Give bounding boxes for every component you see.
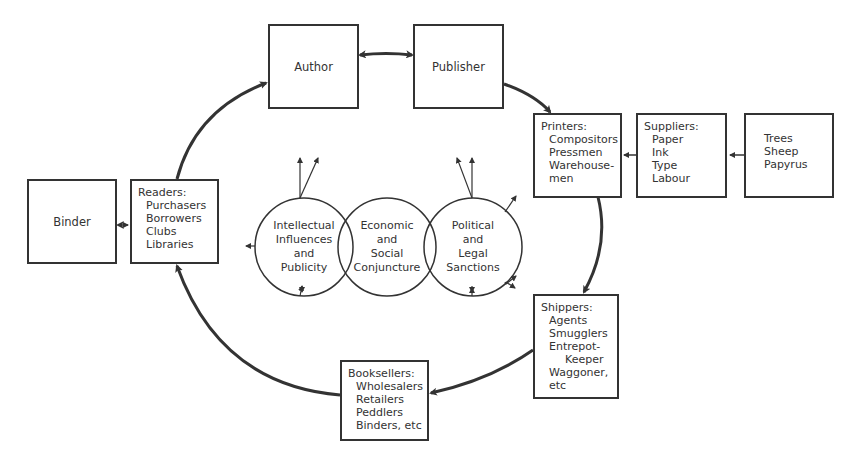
readers-item: Purchasers [138,199,213,212]
printers-box: Printers: Compositors Pressmen Warehouse… [533,113,622,198]
readers-item: Borrowers [138,212,213,225]
binder-box: Binder [27,179,117,264]
arrow-publisher-printers [504,84,550,112]
raw-materials-box: Trees Sheep Papyrus [744,113,834,198]
arrow-printers-shippers [584,197,602,292]
booksellers-item: Binders, etc [348,419,423,432]
circle-economic-text: Economic and Social Conjuncture [347,219,427,275]
printers-item: Pressmen [541,146,616,159]
shippers-item: Entrepot- [541,340,613,353]
printers-heading: Printers: [541,120,616,133]
circle-political-text: Political and Legal Sanctions [433,219,513,275]
shippers-item: Keeper [541,353,613,366]
author-label: Author [294,60,333,74]
suppliers-heading: Suppliers: [644,120,721,133]
readers-item: Libraries [138,238,213,251]
printers-item: men [541,172,616,185]
arrow-shippers-booksellers [431,350,533,393]
publisher-box: Publisher [413,24,504,109]
shippers-item: etc [541,379,613,392]
booksellers-item: Retailers [348,393,423,406]
publisher-label: Publisher [432,60,485,74]
arrow-booksellers-readers [177,266,340,395]
booksellers-item: Wholesalers [348,380,423,393]
arrow-author-publisher [360,54,412,56]
shippers-item: Smugglers [541,327,613,340]
raw-material-item: Sheep [752,145,828,158]
shippers-item: Waggoner, [541,366,613,379]
raw-material-item: Papyrus [752,158,828,171]
binder-label: Binder [53,215,90,229]
circle-intellectual-text: Intellectual Influences and Publicity [264,219,344,275]
readers-item: Clubs [138,225,213,238]
readers-heading: Readers: [138,186,213,199]
suppliers-box: Suppliers: Paper Ink Type Labour [636,113,727,198]
readers-box: Readers: Purchasers Borrowers Clubs Libr… [130,179,219,264]
raw-material-item: Trees [752,132,828,145]
suppliers-item: Labour [644,172,721,185]
suppliers-item: Ink [644,146,721,159]
booksellers-item: Peddlers [348,406,423,419]
printers-item: Compositors [541,133,616,146]
shippers-heading: Shippers: [541,301,613,314]
suppliers-item: Type [644,159,721,172]
suppliers-item: Paper [644,133,721,146]
booksellers-heading: Booksellers: [348,367,423,380]
shippers-item: Agents [541,314,613,327]
arrow-readers-author [177,83,266,179]
booksellers-box: Booksellers: Wholesalers Retailers Peddl… [340,360,429,441]
author-box: Author [268,24,359,109]
printers-item: Warehouse- [541,159,616,172]
shippers-box: Shippers: Agents Smugglers Entrepot- Kee… [533,294,619,399]
